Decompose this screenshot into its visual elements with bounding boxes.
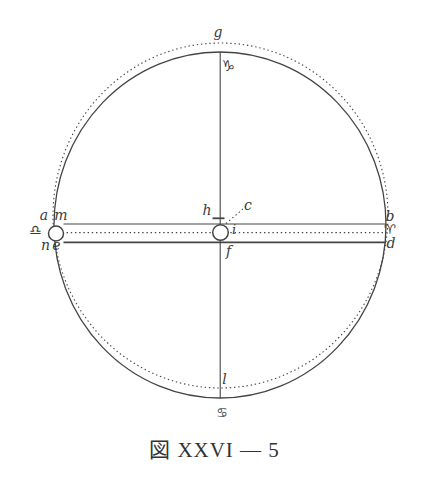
label-h: h — [202, 202, 211, 218]
label-n: n — [41, 237, 50, 253]
label-l: l — [222, 371, 226, 387]
libra-symbol: ♎ — [29, 222, 42, 238]
center-node-circle — [213, 225, 229, 241]
label-d: d — [387, 235, 396, 251]
label-m: m — [54, 207, 67, 223]
diagram-canvas: g ♑ h c i f a m n e ♎ b ♈ d l ♋ — [0, 0, 429, 482]
label-f: f — [225, 243, 234, 259]
label-g: g — [214, 24, 223, 40]
label-a: a — [40, 207, 48, 223]
label-e: e — [52, 237, 60, 253]
capricorn-symbol: ♑ — [222, 57, 235, 75]
label-c: c — [244, 197, 252, 213]
figure-area: g ♑ h c i f a m n e ♎ b ♈ d l ♋ 図 XXVI —… — [0, 0, 429, 482]
cancer-symbol: ♋ — [216, 405, 228, 420]
figure-caption: 図 XXVI — 5 — [0, 433, 429, 463]
label-i: i — [232, 222, 236, 237]
